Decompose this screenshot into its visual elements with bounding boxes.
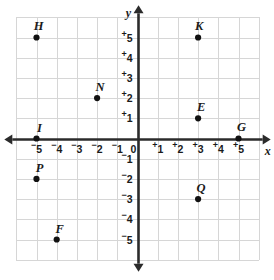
y-tick-label--3: −3 <box>121 190 132 205</box>
y-axis-arrow-up <box>134 5 144 13</box>
y-tick-label-3: +3 <box>121 69 132 84</box>
plotted-point-f: F <box>54 222 65 243</box>
point-label-q: Q <box>197 181 206 195</box>
x-tick-label--4: −4 <box>51 140 62 155</box>
plotted-point-k: K <box>194 19 205 41</box>
y-tick-label--5: −5 <box>121 231 132 246</box>
point-label-h: H <box>33 19 45 33</box>
point-label-n: N <box>95 80 106 94</box>
point-marker-p <box>33 176 39 182</box>
y-tick-label-4: +4 <box>121 49 132 64</box>
x-tick-label-2: +2 <box>172 140 183 155</box>
y-tick-label--4: −4 <box>121 210 132 225</box>
point-marker-k <box>195 34 201 40</box>
plotted-point-p: P <box>33 161 43 182</box>
x-tick-label--3: −3 <box>71 140 82 155</box>
x-tick-label-4: +4 <box>213 140 224 155</box>
point-marker-i <box>33 135 39 141</box>
plotted-point-h: H <box>33 19 45 41</box>
point-marker-h <box>33 34 39 40</box>
coordinate-plane-svg: −5−4−3−2−10+1+2+3+4+5 +5+4+3+2+1−1−2−3−4… <box>0 0 274 280</box>
y-tick-label-1: +1 <box>121 109 132 124</box>
y-tick-label-5: +5 <box>121 29 132 44</box>
point-marker-e <box>195 115 201 121</box>
point-marker-f <box>54 236 60 242</box>
axes <box>4 5 270 271</box>
point-label-e: E <box>196 100 205 114</box>
y-tick-label--1: −1 <box>121 150 132 165</box>
point-label-p: P <box>36 161 44 175</box>
coordinate-plane-figure: −5−4−3−2−10+1+2+3+4+5 +5+4+3+2+1−1−2−3−4… <box>0 0 274 280</box>
y-axis-tick-labels: +5+4+3+2+1−1−2−3−4−5 <box>121 29 132 246</box>
x-tick-label--5: −5 <box>31 140 42 155</box>
x-axis-arrow-left <box>4 135 12 145</box>
y-tick-label-2: +2 <box>121 89 132 104</box>
point-marker-n <box>94 95 100 101</box>
point-marker-q <box>195 196 201 202</box>
x-axis-name: x <box>264 144 271 158</box>
y-tick-label--2: −2 <box>121 170 132 185</box>
x-tick-label--2: −2 <box>92 140 103 155</box>
y-axis-arrow-down <box>134 264 144 272</box>
point-label-k: K <box>194 19 205 33</box>
point-label-f: F <box>55 222 65 236</box>
y-axis-name: y <box>124 6 132 20</box>
point-marker-g <box>235 135 241 141</box>
x-tick-label-1: +1 <box>152 140 163 155</box>
x-tick-label-3: +3 <box>193 140 204 155</box>
x-tick-label-5: +5 <box>233 140 244 155</box>
point-label-g: G <box>237 120 246 134</box>
point-label-i: I <box>36 121 43 135</box>
